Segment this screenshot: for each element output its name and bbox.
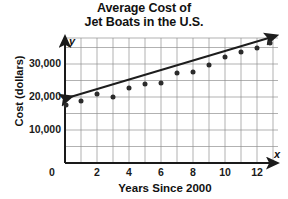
data-point xyxy=(191,70,196,75)
data-point xyxy=(143,82,148,87)
chart-figure: Average Cost of Jet Boats in the U.S. Co… xyxy=(0,0,288,199)
data-point xyxy=(111,95,116,100)
data-point xyxy=(127,86,132,91)
plot-area xyxy=(0,0,288,199)
data-point xyxy=(159,81,164,86)
data-point xyxy=(64,103,69,108)
data-point xyxy=(95,92,100,97)
data-point xyxy=(255,46,260,51)
data-point xyxy=(79,99,84,104)
data-point xyxy=(175,71,180,76)
vertical-gridlines xyxy=(81,38,273,163)
data-point xyxy=(268,41,273,46)
data-point xyxy=(223,55,228,60)
data-point xyxy=(207,63,212,68)
data-point xyxy=(239,50,244,55)
x-axis-label: Years Since 2000 xyxy=(60,182,270,194)
